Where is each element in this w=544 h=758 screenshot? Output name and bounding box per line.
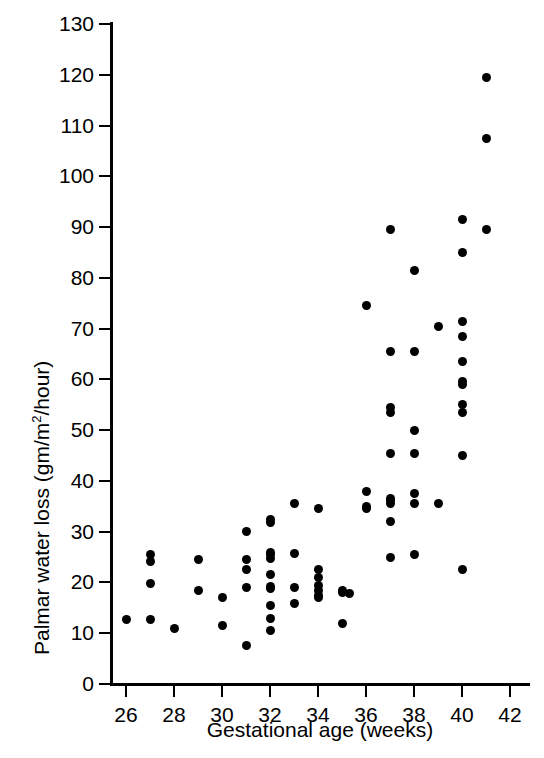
data-point bbox=[458, 408, 467, 417]
data-point bbox=[386, 449, 395, 458]
data-point bbox=[386, 347, 395, 356]
data-point bbox=[410, 426, 419, 435]
data-point bbox=[410, 489, 419, 498]
data-point bbox=[458, 357, 467, 366]
data-point bbox=[266, 584, 275, 593]
data-point bbox=[482, 134, 491, 143]
data-point bbox=[386, 553, 395, 562]
data-point bbox=[482, 225, 491, 234]
data-point bbox=[146, 579, 155, 588]
data-point bbox=[242, 583, 251, 592]
data-point bbox=[266, 626, 275, 635]
data-point bbox=[242, 565, 251, 574]
data-point bbox=[434, 499, 443, 508]
data-point bbox=[386, 225, 395, 234]
data-point bbox=[386, 499, 395, 508]
data-point bbox=[122, 615, 131, 624]
data-point bbox=[410, 499, 419, 508]
data-point bbox=[290, 583, 299, 592]
scatter-plot-figure: Palmar water loss (gm/m2/hour) 010203040… bbox=[0, 0, 544, 758]
data-point bbox=[458, 248, 467, 257]
data-point bbox=[290, 549, 299, 558]
data-points-layer bbox=[0, 0, 544, 758]
data-point bbox=[266, 554, 275, 563]
data-point bbox=[458, 317, 467, 326]
data-point bbox=[242, 641, 251, 650]
data-point bbox=[266, 570, 275, 579]
data-point bbox=[458, 332, 467, 341]
data-point bbox=[458, 215, 467, 224]
data-point bbox=[434, 322, 443, 331]
data-point bbox=[458, 565, 467, 574]
data-point bbox=[345, 589, 354, 598]
data-point bbox=[194, 586, 203, 595]
data-point bbox=[242, 527, 251, 536]
data-point bbox=[266, 601, 275, 610]
data-point bbox=[146, 615, 155, 624]
data-point bbox=[290, 599, 299, 608]
data-point bbox=[410, 550, 419, 559]
data-point bbox=[410, 266, 419, 275]
data-point bbox=[458, 451, 467, 460]
data-point bbox=[194, 555, 203, 564]
data-point bbox=[266, 518, 275, 527]
data-point bbox=[314, 593, 323, 602]
data-point bbox=[146, 557, 155, 566]
data-point bbox=[290, 499, 299, 508]
data-point bbox=[314, 504, 323, 513]
data-point bbox=[266, 614, 275, 623]
data-point bbox=[170, 624, 179, 633]
data-point bbox=[338, 619, 347, 628]
data-point bbox=[458, 380, 467, 389]
data-point bbox=[386, 517, 395, 526]
x-axis-title: Gestational age (weeks) bbox=[110, 718, 530, 742]
data-point bbox=[482, 73, 491, 82]
data-point bbox=[410, 347, 419, 356]
data-point bbox=[218, 621, 227, 630]
data-point bbox=[362, 504, 371, 513]
data-point bbox=[362, 301, 371, 310]
data-point bbox=[362, 487, 371, 496]
data-point bbox=[386, 408, 395, 417]
data-point bbox=[242, 555, 251, 564]
data-point bbox=[218, 593, 227, 602]
data-point bbox=[410, 449, 419, 458]
